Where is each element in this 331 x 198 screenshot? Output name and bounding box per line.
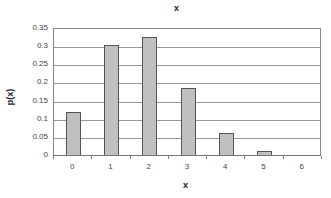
y-tick-label: 0.35 [32, 23, 48, 32]
x-tick-mark [130, 156, 131, 159]
x-tick-label: 4 [215, 162, 235, 171]
x-tick-mark [321, 156, 322, 159]
bar-x-2 [142, 37, 157, 155]
bar-x-4 [219, 133, 234, 155]
gridline [54, 65, 320, 66]
x-tick-label: 0 [62, 162, 82, 171]
x-tick-label: 2 [139, 162, 159, 171]
y-tick-label: 0.25 [32, 59, 48, 68]
y-tick-label: 0.15 [32, 96, 48, 105]
x-tick-label: 1 [100, 162, 120, 171]
x-axis [53, 155, 321, 156]
y-tick-label: 0 [44, 150, 48, 159]
gridline [54, 47, 320, 48]
y-tick-label: 0.05 [32, 132, 48, 141]
x-tick-mark [168, 156, 169, 159]
x-tick-label: 3 [177, 162, 197, 171]
bar-x-1 [104, 45, 119, 155]
x-tick-label: 6 [292, 162, 312, 171]
y-axis-title: p(x) [5, 89, 15, 106]
y-tick-label: 0.1 [37, 114, 48, 123]
x-tick-label: 5 [254, 162, 274, 171]
y-tick-label: 0.2 [37, 77, 48, 86]
x-tick-mark [206, 156, 207, 159]
chart-title: x [0, 3, 331, 13]
x-tick-mark [283, 156, 284, 159]
gridline [54, 83, 320, 84]
bar-x-0 [66, 112, 81, 155]
x-tick-mark [244, 156, 245, 159]
x-tick-mark [91, 156, 92, 159]
bar-x-3 [181, 88, 196, 155]
y-tick-label: 0.3 [37, 41, 48, 50]
x-tick-mark [53, 156, 54, 159]
plot-area [53, 28, 321, 155]
x-axis-title: x [183, 180, 188, 190]
